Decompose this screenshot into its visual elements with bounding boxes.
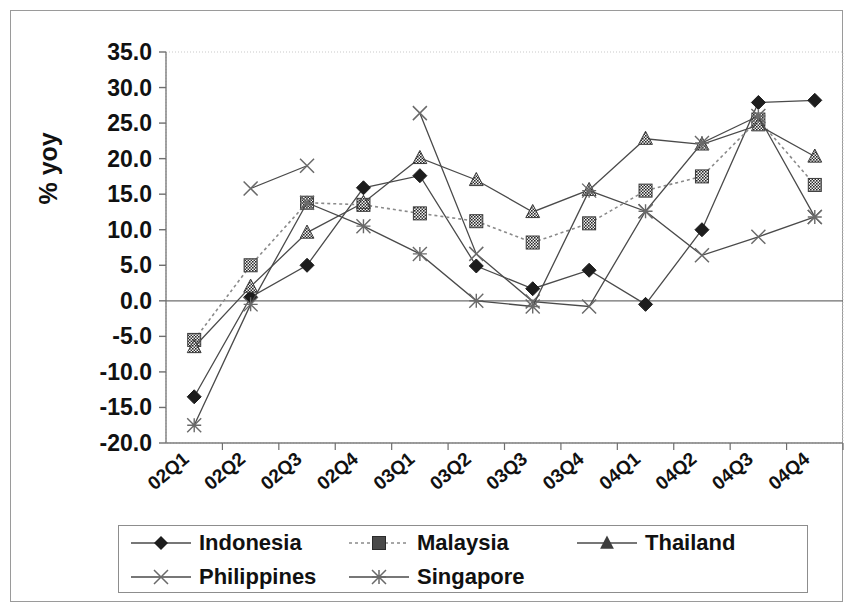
y-tick-label: 20.0 xyxy=(107,146,152,172)
chart-legend: Indonesia Malaysia Thailand Philippines … xyxy=(118,525,808,593)
legend-label: Malaysia xyxy=(417,530,509,556)
square-icon xyxy=(347,531,411,555)
asterisk-icon xyxy=(347,565,411,589)
triangle-icon xyxy=(575,531,639,555)
legend-item-malaysia: Malaysia xyxy=(347,530,575,556)
y-tick-label: 30.0 xyxy=(107,75,152,101)
x-tick-label: 04Q1 xyxy=(595,448,644,494)
legend-label: Philippines xyxy=(199,564,316,590)
x-tick-label: 03Q1 xyxy=(369,448,418,494)
x-tick-label: 04Q2 xyxy=(651,448,700,494)
legend-item-indonesia: Indonesia xyxy=(129,530,347,556)
x-tick-label: 03Q3 xyxy=(482,448,531,494)
y-tick-label: 25.0 xyxy=(107,110,152,136)
y-tick-label: 5.0 xyxy=(120,252,152,278)
legend-label: Indonesia xyxy=(199,530,302,556)
legend-label: Thailand xyxy=(645,530,735,556)
chart-screenshot: % yoy 35.030.025.020.015.010.05.00.0-5.0… xyxy=(0,0,855,612)
x-tick-label: 03Q4 xyxy=(539,448,588,494)
x-tick-label: 02Q3 xyxy=(257,448,306,494)
y-tick-label: -15.0 xyxy=(100,394,152,420)
chart-svg: 35.030.025.020.015.010.05.00.0-5.0-10.0-… xyxy=(0,0,855,612)
y-tick-label: 15.0 xyxy=(107,181,152,207)
series-singapore xyxy=(187,109,822,432)
cross-icon xyxy=(129,565,193,589)
plot-area: 35.030.025.020.015.010.05.00.0-5.0-10.0-… xyxy=(0,0,855,612)
series-malaysia xyxy=(188,113,822,346)
legend-label: Singapore xyxy=(417,564,525,590)
legend-item-philippines: Philippines xyxy=(129,564,347,590)
diamond-icon xyxy=(129,531,193,555)
x-tick-label: 02Q4 xyxy=(313,448,362,494)
series-thailand xyxy=(187,118,821,353)
legend-row-1: Indonesia Malaysia Thailand xyxy=(119,526,807,560)
x-tick-label: 04Q4 xyxy=(764,448,813,494)
x-tick-label: 04Q3 xyxy=(708,448,757,494)
y-tick-label: 35.0 xyxy=(107,39,152,65)
series-indonesia xyxy=(187,93,822,403)
y-tick-label: 0.0 xyxy=(120,288,152,314)
y-tick-label: -10.0 xyxy=(100,359,152,385)
y-tick-label: -5.0 xyxy=(112,323,152,349)
legend-item-singapore: Singapore xyxy=(347,564,525,590)
x-tick-label: 02Q2 xyxy=(200,448,249,494)
y-tick-label: 10.0 xyxy=(107,217,152,243)
legend-item-thailand: Thailand xyxy=(575,530,735,556)
y-tick-label: -20.0 xyxy=(100,430,152,456)
legend-row-2: Philippines Singapore xyxy=(119,560,807,594)
x-tick-label: 03Q2 xyxy=(426,448,475,494)
